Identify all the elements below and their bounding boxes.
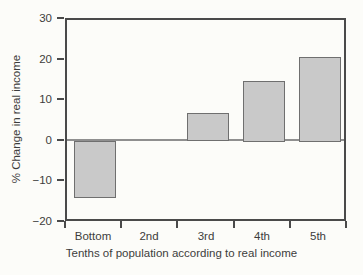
x-axis-title: Tenths of population according to real i… [0,247,363,259]
bar-chart-figure: % Change in real income Tenths of popula… [0,0,363,275]
y-tick-mark [57,17,64,19]
y-tick-label: 0 [0,133,52,147]
x-tick-mark [120,221,122,228]
x-tick-mark [176,221,178,228]
bar-bottom [74,141,116,198]
x-tick-mark [64,221,66,228]
bar-4th [243,81,285,142]
y-tick-mark [57,58,64,60]
plot-area [65,18,346,221]
x-category-label: Bottom [65,229,121,243]
bar-3rd [187,113,229,141]
x-tick-mark [289,221,291,228]
x-tick-mark [345,221,347,228]
x-tick-mark [233,221,235,228]
x-category-label: 3rd [178,229,234,243]
y-tick-label: −20 [0,214,52,228]
y-axis-title: % Change in real income [10,54,22,183]
y-tick-label: −10 [0,173,52,187]
y-tick-mark [57,98,64,100]
x-category-label: 4th [234,229,290,243]
y-tick-label: 20 [0,52,52,66]
x-category-label: 5th [290,229,346,243]
y-tick-mark [57,139,64,141]
y-tick-mark [57,220,64,222]
bar-5th [299,57,341,142]
x-category-label: 2nd [121,229,177,243]
y-tick-label: 10 [0,92,52,106]
y-tick-mark [57,179,64,181]
y-tick-label: 30 [0,11,52,25]
